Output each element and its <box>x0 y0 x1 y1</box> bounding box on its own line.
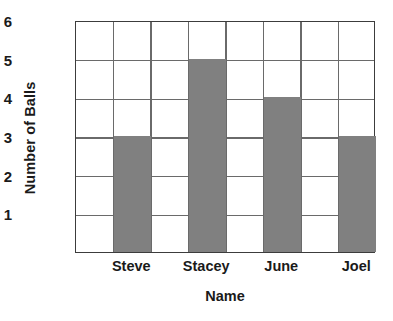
plot-area <box>75 21 375 253</box>
y-axis-tick-label: 1 <box>0 207 12 222</box>
x-axis-category-label: Joel <box>311 258 393 274</box>
y-axis-tick-label: 3 <box>0 130 12 145</box>
y-axis-title: Number of Balls <box>22 58 38 218</box>
bar <box>114 136 152 252</box>
bar <box>264 97 302 252</box>
bar <box>189 59 227 252</box>
y-axis-tick-label: 5 <box>0 52 12 67</box>
y-axis-tick-label: 4 <box>0 91 12 106</box>
y-axis-tick-label: 6 <box>0 14 12 29</box>
y-axis-tick-label: 2 <box>0 168 12 183</box>
bars-layer <box>76 22 374 252</box>
bar <box>339 136 377 252</box>
x-axis-title: Name <box>75 288 375 304</box>
bar-chart-figure: Number of Balls 654321 SteveStaceyJuneJo… <box>0 0 393 321</box>
